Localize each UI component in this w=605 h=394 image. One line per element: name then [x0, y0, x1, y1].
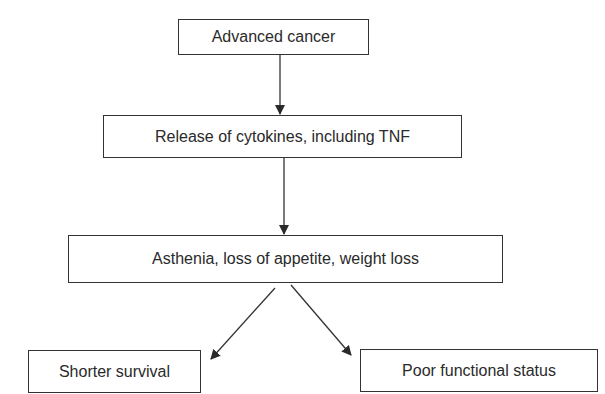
node-label: Shorter survival	[59, 363, 170, 381]
arrow-n3-n5	[291, 285, 351, 355]
node-label: Advanced cancer	[212, 28, 336, 46]
node-asthenia: Asthenia, loss of appetite, weight loss	[68, 235, 503, 283]
node-label: Asthenia, loss of appetite, weight loss	[152, 250, 419, 268]
node-release-of-cytokines: Release of cytokines, including TNF	[103, 115, 462, 158]
node-shorter-survival: Shorter survival	[28, 350, 201, 393]
node-label: Release of cytokines, including TNF	[155, 128, 410, 146]
node-poor-functional-status: Poor functional status	[360, 349, 598, 392]
arrows-layer	[0, 0, 605, 394]
node-label: Poor functional status	[402, 362, 556, 380]
arrow-n3-n4	[211, 288, 275, 359]
node-advanced-cancer: Advanced cancer	[178, 19, 369, 55]
